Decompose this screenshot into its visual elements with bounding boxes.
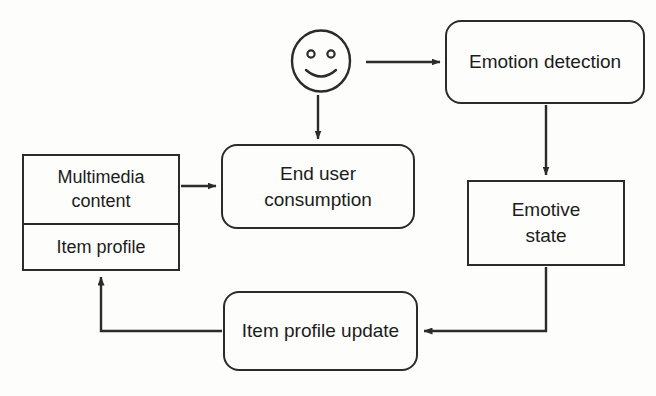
node-multimedia-content[interactable]: Multimedia content bbox=[24, 156, 178, 225]
node-emotion-detection[interactable]: Emotion detection bbox=[445, 20, 645, 104]
node-content-stack[interactable]: Multimedia content Item profile bbox=[22, 154, 180, 271]
node-end-user-consumption[interactable]: End user consumption bbox=[221, 144, 415, 229]
diagram-canvas: Emotion detection Emotive state End user… bbox=[0, 0, 656, 396]
smiley-right-eye-icon bbox=[327, 50, 334, 57]
edge-item-profile-update-to-content-stack bbox=[101, 277, 222, 331]
node-item-profile-label: Item profile bbox=[50, 235, 151, 259]
smiley-face-icon bbox=[290, 29, 352, 93]
node-end-user-consumption-label: End user consumption bbox=[258, 161, 378, 212]
node-emotion-detection-label: Emotion detection bbox=[463, 49, 627, 75]
node-item-profile[interactable]: Item profile bbox=[24, 225, 178, 269]
node-multimedia-content-label: Multimedia content bbox=[51, 165, 150, 214]
node-emotive-state[interactable]: Emotive state bbox=[467, 180, 625, 266]
node-item-profile-update-label: Item profile update bbox=[236, 318, 405, 344]
node-item-profile-update[interactable]: Item profile update bbox=[223, 291, 418, 371]
edge-emotive-state-to-item-profile-update bbox=[424, 267, 546, 331]
node-emotive-state-label: Emotive state bbox=[506, 197, 587, 248]
smiley-left-eye-icon bbox=[307, 50, 314, 57]
